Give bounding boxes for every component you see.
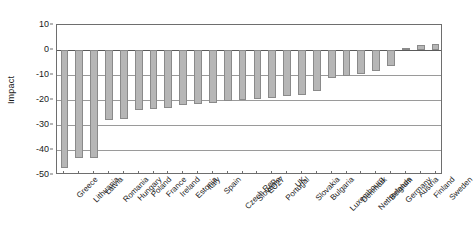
bar: [224, 50, 232, 101]
y-axis-tick-mark: [50, 124, 53, 125]
y-axis-tick-mark: [50, 149, 53, 150]
bar: [120, 50, 128, 119]
x-axis-tick-mark: [242, 171, 243, 174]
x-axis-tick-mark: [271, 171, 272, 174]
bar-series: [57, 25, 441, 173]
plot-area: [56, 24, 442, 174]
x-axis-tick-mark: [227, 171, 228, 174]
x-axis-tick-mark: [153, 171, 154, 174]
x-axis-tick-mark: [167, 171, 168, 174]
x-axis-tick-mark: [360, 171, 361, 174]
x-axis-tick-mark: [182, 171, 183, 174]
x-axis-tick-mark: [197, 171, 198, 174]
x-axis-tick-mark: [420, 171, 421, 174]
x-axis-tick-mark: [301, 171, 302, 174]
y-axis-tick-label: -30: [36, 119, 49, 129]
x-axis-tick-mark: [63, 171, 64, 174]
bar: [372, 50, 380, 71]
bar: [150, 50, 158, 109]
y-axis-tick-mark: [50, 99, 53, 100]
y-axis-tick-mark: [50, 49, 53, 50]
x-axis-tick-mark: [212, 171, 213, 174]
bar: [328, 50, 336, 78]
y-axis-tick-label: -10: [36, 69, 49, 79]
x-axis-tick-mark: [405, 171, 406, 174]
bar: [135, 50, 143, 110]
x-axis-tick-mark: [286, 171, 287, 174]
bar: [268, 50, 276, 98]
x-axis-tick-mark: [390, 171, 391, 174]
x-axis-tick-mark: [138, 171, 139, 174]
y-axis-tick-label: 10: [39, 19, 49, 29]
bar: [357, 50, 365, 74]
y-axis-tick-mark: [50, 74, 53, 75]
y-axis-tick-mark: [50, 174, 53, 175]
x-axis-tick-label: Spain: [222, 175, 243, 196]
x-axis-tick-mark: [316, 171, 317, 174]
x-axis-tick-mark: [93, 171, 94, 174]
y-axis-title-text: Impact: [6, 76, 16, 104]
bar: [283, 50, 291, 96]
x-axis-tick-mark: [346, 171, 347, 174]
x-axis-tick-mark: [331, 171, 332, 174]
bar: [239, 50, 247, 100]
x-axis-tick-labels: GreeceLithuaniaLatviaRomaniaHungaryPolan…: [56, 175, 442, 244]
bar: [254, 50, 262, 99]
bar: [432, 44, 440, 50]
bar: [313, 50, 321, 91]
x-axis-tick-mark: [78, 171, 79, 174]
x-axis-tick-mark: [123, 171, 124, 174]
bar: [90, 50, 98, 158]
y-axis-tick-label: -20: [36, 94, 49, 104]
x-axis-tick-mark: [435, 171, 436, 174]
y-axis-tick-label: -40: [36, 144, 49, 154]
bar: [387, 50, 395, 66]
bar: [105, 50, 113, 120]
bar: [75, 50, 83, 158]
bar: [209, 50, 217, 103]
bar: [298, 50, 306, 95]
x-axis-tick-mark: [108, 171, 109, 174]
y-axis-tick-labels: 100-10-20-30-40-50: [20, 24, 53, 174]
bar: [402, 48, 410, 50]
x-axis-tick-mark: [375, 171, 376, 174]
bar: [417, 45, 425, 50]
bar: [61, 50, 69, 168]
bar: [164, 50, 172, 108]
bar: [194, 50, 202, 104]
y-axis-tick-label: -50: [36, 169, 49, 179]
y-axis-title: Impact: [2, 0, 20, 180]
x-axis-tick-label: Latvia: [103, 175, 124, 196]
bar: [179, 50, 187, 105]
bar: [343, 50, 351, 76]
x-axis-tick-mark: [256, 171, 257, 174]
y-axis-tick-mark: [50, 24, 53, 25]
y-axis-tick-label: 0: [44, 44, 49, 54]
